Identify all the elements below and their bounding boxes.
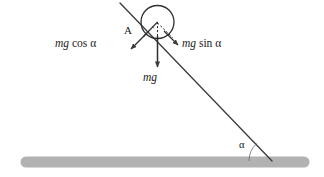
label-mg-var: mg	[143, 71, 157, 83]
label-alpha-incline: α	[239, 140, 245, 151]
label-mg-cos-alpha: mg cos α	[55, 38, 96, 50]
physics-diagram-inclined-plane: A mg cos α mg sin α mg α	[0, 0, 324, 177]
normal-dashed-line	[158, 23, 173, 38]
arrow-mg-cos-alpha	[131, 33, 147, 49]
label-mg-cos-alpha-fn: cos	[72, 37, 87, 49]
label-mg-sin-alpha-var: mg	[182, 37, 196, 49]
label-mg-cos-alpha-var: mg	[55, 37, 69, 49]
label-mg-sin-alpha: mg sin α	[182, 38, 221, 50]
label-mg-sin-alpha-greek: α	[215, 37, 221, 49]
arrow-mg-sin-alpha	[164, 31, 178, 45]
label-mg: mg	[143, 72, 157, 84]
diagram-canvas	[0, 0, 324, 177]
label-mg-cos-alpha-greek: α	[90, 37, 96, 49]
label-point-a: A	[124, 25, 132, 36]
label-mg-sin-alpha-fn: sin	[199, 37, 212, 49]
